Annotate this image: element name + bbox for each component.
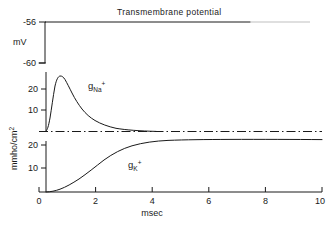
x-label-6: 6 bbox=[206, 196, 211, 206]
conductance-axis-title-text: mmho/cm bbox=[9, 130, 19, 170]
gk-label-superscript: + bbox=[138, 159, 142, 166]
x-axis bbox=[39, 187, 322, 192]
voltage-label-minus60: -60 bbox=[23, 58, 36, 68]
voltage-label-minus56: -56 bbox=[23, 17, 36, 27]
gna-label-superscript: + bbox=[102, 80, 106, 87]
gk-label-subscript: K bbox=[133, 165, 138, 172]
sodium-panel bbox=[41, 72, 156, 131]
x-label-2: 2 bbox=[93, 196, 98, 206]
x-axis-title: msec bbox=[141, 208, 163, 218]
voltage-panel bbox=[39, 22, 310, 63]
plot-svg: Transmembrane potential -56 -60 mV 20 10… bbox=[0, 0, 329, 227]
figure-title: Transmembrane potential bbox=[117, 7, 222, 17]
gna-label-subscript: Na bbox=[93, 86, 102, 93]
sodium-label-20: 20 bbox=[28, 84, 38, 94]
conductance-axis-title: mmho/cm2 bbox=[8, 126, 20, 170]
x-label-4: 4 bbox=[150, 196, 155, 206]
voltage-axis-title: mV bbox=[13, 37, 27, 47]
gna-curve-label: gNa+ bbox=[88, 80, 106, 93]
potassium-conductance-trace bbox=[46, 139, 322, 192]
x-label-8: 8 bbox=[263, 196, 268, 206]
figure-container: Transmembrane potential -56 -60 mV 20 10… bbox=[0, 0, 329, 227]
potassium-label-20: 20 bbox=[28, 140, 38, 150]
x-label-0: 0 bbox=[36, 196, 41, 206]
x-label-10: 10 bbox=[315, 196, 325, 206]
gk-curve-label: gK+ bbox=[128, 159, 142, 172]
conductance-axis-title-exponent: 2 bbox=[8, 126, 15, 130]
svg-text:mmho/cm2: mmho/cm2 bbox=[8, 126, 20, 170]
sodium-label-10: 10 bbox=[28, 105, 38, 115]
voltage-step-trace bbox=[39, 22, 250, 63]
potassium-label-10: 10 bbox=[28, 163, 38, 173]
potassium-panel bbox=[41, 139, 322, 192]
